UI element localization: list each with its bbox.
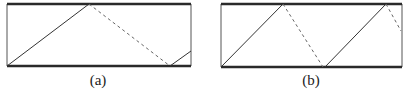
solid-ray-segment <box>7 4 89 66</box>
solid-ray-segment <box>221 4 283 67</box>
panel-a <box>7 4 191 66</box>
dashed-ray-segment <box>386 4 401 31</box>
panel-b-caption: (b) <box>302 73 320 88</box>
panel-a-caption: (a) <box>90 73 107 88</box>
solid-ray-segment <box>325 4 386 67</box>
dashed-ray-segment <box>89 4 170 66</box>
dashed-ray-segment <box>283 4 323 67</box>
panel-b <box>221 4 402 67</box>
solid-ray-segment <box>170 51 191 66</box>
ray-reflection-diagram <box>0 0 407 94</box>
